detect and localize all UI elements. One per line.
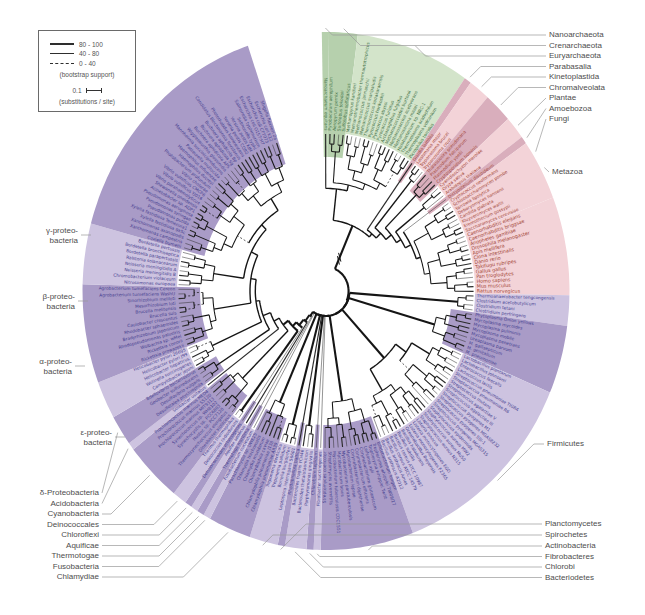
internal-branch xyxy=(409,391,416,399)
internal-branch xyxy=(347,144,349,155)
terminal-branch xyxy=(443,370,451,375)
group-label-line: α-proteo- xyxy=(39,357,72,366)
terminal-branch xyxy=(250,317,312,426)
internal-branch xyxy=(428,260,440,263)
group-label-line: ε-proteo- xyxy=(80,428,112,437)
terminal-branch xyxy=(378,145,381,153)
terminal-branch xyxy=(194,357,202,361)
internal-branch xyxy=(354,147,356,157)
scale-value: 0.1 xyxy=(72,87,81,94)
clade-arc xyxy=(405,365,413,375)
terminal-branch xyxy=(462,254,470,256)
clade-arc xyxy=(456,240,457,244)
internal-branch xyxy=(278,183,282,192)
internal-branch xyxy=(372,406,376,417)
internal-branch xyxy=(434,209,444,216)
group-label-plantae: Plantae xyxy=(549,93,577,102)
legend-label: 80 - 100 xyxy=(79,41,103,48)
thick-line-sample xyxy=(50,43,74,45)
clade-arc xyxy=(188,272,189,276)
terminal-branch xyxy=(396,419,400,427)
internal-branch xyxy=(376,233,381,238)
connector-line xyxy=(368,546,542,550)
internal-branch xyxy=(294,425,297,437)
internal-branch xyxy=(211,320,217,321)
terminal-branch xyxy=(445,361,455,367)
internal-branch xyxy=(375,180,412,227)
terminal-branch xyxy=(179,307,185,308)
internal-branch xyxy=(433,348,440,352)
internal-branch xyxy=(352,399,355,411)
connector-line xyxy=(102,475,150,514)
group-label-parabasalia: Parabasalia xyxy=(549,62,592,71)
clade-arc xyxy=(458,298,459,306)
internal-branch xyxy=(379,415,383,425)
connector-line xyxy=(501,88,546,106)
group-label-planctomycetes: Planctomycetes xyxy=(545,519,601,528)
terminal-branch xyxy=(448,215,456,220)
internal-branch xyxy=(424,273,429,274)
internal-branch xyxy=(441,263,456,266)
terminal-branch xyxy=(246,322,307,423)
internal-branch xyxy=(348,156,350,169)
internal-branch xyxy=(190,283,201,284)
internal-branch xyxy=(443,227,449,230)
group-label-crenarchaeota: Crenarchaeota xyxy=(549,41,602,50)
internal-branch xyxy=(253,184,258,192)
clade-arc xyxy=(438,348,441,355)
clade-arc xyxy=(464,269,465,273)
connector-line xyxy=(527,109,546,138)
terminal-branch xyxy=(464,273,472,274)
internal-branch xyxy=(274,318,279,321)
terminal-branch xyxy=(180,266,188,267)
tree-of-life-figure: { "legend": { "items": [ {"style": "thic… xyxy=(0,0,645,615)
internal-branch xyxy=(305,315,309,321)
group-label-metazoa: Metazoa xyxy=(552,167,583,176)
internal-branch xyxy=(414,233,428,241)
internal-branch xyxy=(438,218,446,223)
thin-line-sample xyxy=(50,53,74,54)
legend-caption: (bootstrap support) xyxy=(43,71,131,78)
terminal-branch xyxy=(457,277,473,279)
clade-arc xyxy=(338,145,342,146)
terminal-branch xyxy=(432,389,437,394)
connector-line xyxy=(536,119,546,152)
internal-branch xyxy=(426,360,436,367)
internal-branch xyxy=(231,204,238,211)
scale-bar-icon xyxy=(86,88,102,93)
terminal-branch xyxy=(384,149,389,160)
clade-arc xyxy=(335,269,349,300)
internal-branch xyxy=(238,236,249,243)
internal-branch xyxy=(280,404,284,416)
clade-arc xyxy=(203,293,204,305)
terminal-branch xyxy=(381,427,384,435)
internal-branch xyxy=(242,193,248,200)
terminal-branch xyxy=(282,434,284,441)
clade-arc xyxy=(248,191,259,200)
connector-line xyxy=(317,554,542,557)
group-label-line: γ-proteo- xyxy=(46,226,78,235)
terminal-branch xyxy=(190,349,198,352)
clade-arc xyxy=(426,348,433,360)
internal-branch xyxy=(299,320,303,326)
group-label-amoebozoa: Amoebozoa xyxy=(549,104,592,113)
internal-branch xyxy=(214,303,251,309)
group-label-fibrobacteres: Fibrobacteres xyxy=(545,552,594,561)
internal-branch xyxy=(269,400,275,413)
terminal-branch xyxy=(454,228,461,231)
terminal-branch xyxy=(448,219,458,224)
terminal-branch xyxy=(290,437,291,443)
internal-branch xyxy=(203,298,213,299)
clade-arc xyxy=(328,418,339,419)
internal-branch xyxy=(188,274,201,276)
legend-label: 40 - 80 xyxy=(79,50,99,57)
internal-branch xyxy=(438,249,449,253)
terminal-branch xyxy=(179,275,188,276)
connector-line xyxy=(102,449,128,504)
terminal-branch xyxy=(295,438,296,444)
clade-arc xyxy=(196,345,198,349)
internal-branch xyxy=(431,283,447,284)
group-label-acidobacteria: Acidobacteria xyxy=(51,499,100,508)
terminal-branch xyxy=(463,259,471,261)
internal-branch xyxy=(251,279,256,280)
